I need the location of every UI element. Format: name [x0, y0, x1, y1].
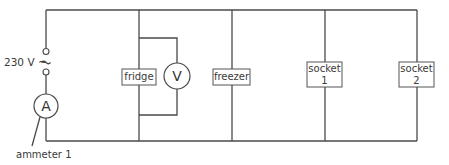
voltmeter-symbol: V: [165, 69, 189, 83]
circuit-diagram: 230 V ~ A V ammeter 1 fridge freezer soc…: [0, 0, 449, 165]
socket2-label-line1: socket: [400, 63, 432, 75]
supply-voltage-label: 230 V ~: [4, 57, 47, 68]
socket1-label-line1: socket: [308, 63, 340, 75]
socket1-label: socket 1: [307, 62, 342, 87]
socket1-label-line2: 1: [321, 75, 327, 87]
ammeter-symbol: A: [34, 99, 58, 113]
socket2-label: socket 2: [399, 62, 434, 87]
freezer-label: freezer: [213, 69, 250, 85]
ammeter-pointer-line: [32, 117, 40, 146]
fridge-label: fridge: [122, 69, 156, 85]
supply-terminal-top: [43, 49, 49, 55]
socket2-label-line2: 2: [413, 75, 419, 87]
freezer-label-text: freezer: [214, 71, 249, 83]
supply-terminal-bottom: [43, 69, 49, 75]
ammeter-annotation: ammeter 1: [16, 150, 72, 160]
fridge-label-text: fridge: [124, 71, 153, 83]
